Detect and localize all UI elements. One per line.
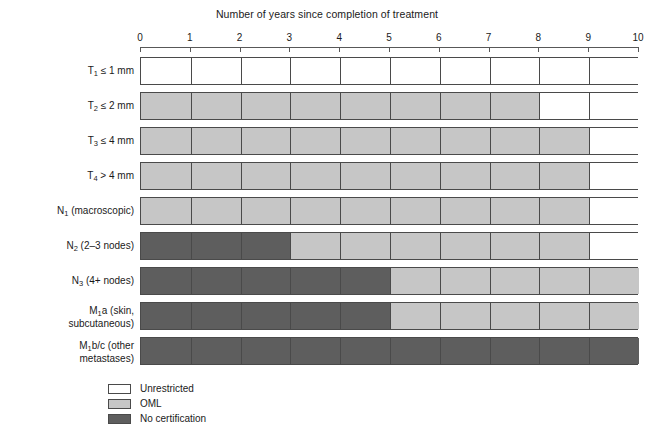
x-axis-tick-label: 9 — [585, 32, 591, 43]
x-axis-tick-label: 6 — [436, 32, 442, 43]
stage-certification-chart: Number of years since completion of trea… — [0, 0, 654, 439]
row-cell-divider — [191, 163, 192, 189]
x-axis-tick-label: 10 — [632, 32, 643, 43]
row-segment-none — [141, 233, 290, 259]
chart-legend: UnrestrictedOMLNo certification — [108, 381, 206, 426]
row-cell-divider — [490, 93, 491, 119]
row-cell-divider — [340, 268, 341, 294]
row-segment-oml — [141, 198, 589, 224]
row-cell-divider — [290, 233, 291, 259]
row-cell-divider — [340, 338, 341, 364]
row-cell-divider — [340, 198, 341, 224]
row-cell-divider — [539, 198, 540, 224]
chart-title: Number of years since completion of trea… — [0, 8, 654, 20]
legend-label: OML — [140, 398, 162, 409]
x-axis-tick-label: 7 — [486, 32, 492, 43]
chart-row — [140, 127, 638, 155]
x-axis-tick — [389, 47, 390, 52]
row-cell-divider — [490, 233, 491, 259]
row-cell-divider — [589, 58, 590, 84]
row-cell-divider — [191, 93, 192, 119]
row-cell-divider — [440, 198, 441, 224]
row-label: T4 > 4 mm — [4, 170, 134, 183]
row-cell-divider — [241, 198, 242, 224]
row-cell-divider — [440, 128, 441, 154]
row-cell-divider — [241, 303, 242, 329]
row-segment-unrestricted — [589, 233, 639, 259]
row-cell-divider — [589, 338, 590, 364]
x-axis-tick-label: 4 — [336, 32, 342, 43]
x-axis-tick — [439, 47, 440, 52]
row-cell-divider — [490, 268, 491, 294]
x-axis-tick — [289, 47, 290, 52]
legend-swatch-none — [108, 414, 131, 424]
row-label: N2 (2–3 nodes) — [4, 240, 134, 253]
x-axis-tick — [140, 47, 141, 52]
row-cell-divider — [241, 58, 242, 84]
row-cell-divider — [340, 233, 341, 259]
row-cell-divider — [589, 268, 590, 294]
legend-item: No certification — [108, 411, 206, 426]
chart-row — [140, 232, 638, 260]
legend-label: Unrestricted — [140, 383, 194, 394]
row-cell-divider — [390, 303, 391, 329]
row-cell-divider — [440, 303, 441, 329]
x-axis-tick-label: 5 — [386, 32, 392, 43]
row-cell-divider — [241, 268, 242, 294]
row-cell-divider — [290, 128, 291, 154]
row-cell-divider — [440, 338, 441, 364]
x-axis-tick — [538, 47, 539, 52]
row-cell-divider — [490, 163, 491, 189]
row-cell-divider — [390, 58, 391, 84]
row-cell-divider — [241, 163, 242, 189]
row-cell-divider — [290, 198, 291, 224]
row-cell-divider — [589, 163, 590, 189]
legend-item: Unrestricted — [108, 381, 206, 396]
row-cell-divider — [539, 233, 540, 259]
row-cell-divider — [241, 338, 242, 364]
row-cell-divider — [340, 163, 341, 189]
row-segment-oml — [390, 268, 639, 294]
x-axis-tick-label: 1 — [187, 32, 193, 43]
row-cell-divider — [241, 233, 242, 259]
row-cell-divider — [390, 128, 391, 154]
row-cell-divider — [290, 163, 291, 189]
row-cell-divider — [241, 93, 242, 119]
row-cell-divider — [440, 58, 441, 84]
row-label: M1a (skin,subcutaneous) — [4, 305, 134, 329]
row-cell-divider — [539, 163, 540, 189]
row-cell-divider — [589, 303, 590, 329]
chart-row — [140, 57, 638, 85]
row-cell-divider — [539, 58, 540, 84]
row-cell-divider — [440, 268, 441, 294]
row-cell-divider — [390, 338, 391, 364]
legend-swatch-oml — [108, 399, 131, 409]
row-cell-divider — [390, 198, 391, 224]
x-axis-tick-label: 0 — [137, 32, 143, 43]
row-segment-unrestricted — [589, 198, 639, 224]
row-cell-divider — [191, 303, 192, 329]
row-cell-divider — [539, 303, 540, 329]
x-axis-tick — [588, 47, 589, 52]
row-segment-unrestricted — [589, 163, 639, 189]
x-axis-tick-label: 3 — [287, 32, 293, 43]
row-cell-divider — [191, 198, 192, 224]
row-segment-oml — [390, 303, 639, 329]
row-cell-divider — [539, 93, 540, 119]
row-cell-divider — [390, 163, 391, 189]
row-cell-divider — [290, 58, 291, 84]
x-axis-tick — [190, 47, 191, 52]
row-label: T1 ≤ 1 mm — [4, 65, 134, 78]
row-cell-divider — [490, 303, 491, 329]
row-label: M1b/c (othermetastases) — [4, 340, 134, 364]
chart-row — [140, 302, 638, 330]
row-cell-divider — [390, 268, 391, 294]
row-cell-divider — [390, 93, 391, 119]
row-cell-divider — [589, 93, 590, 119]
chart-row — [140, 92, 638, 120]
x-axis-tick-label: 2 — [237, 32, 243, 43]
legend-item: OML — [108, 396, 206, 411]
row-segment-none — [141, 268, 390, 294]
chart-row — [140, 267, 638, 295]
row-cell-divider — [440, 163, 441, 189]
